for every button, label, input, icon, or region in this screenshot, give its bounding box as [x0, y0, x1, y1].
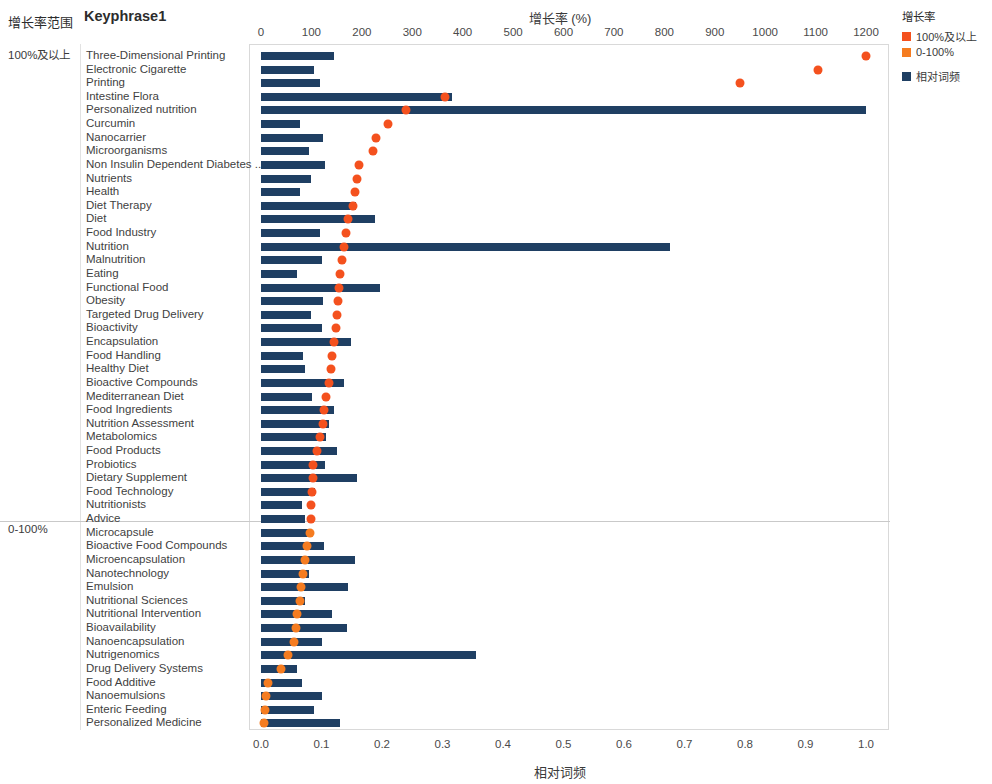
legend-items: 100%及以上0-100%相对词频	[902, 28, 977, 84]
frequency-bar	[261, 542, 324, 550]
legend-swatch-icon	[902, 32, 911, 41]
frequency-bar	[261, 501, 302, 509]
row-label: Nanoemulsions	[86, 689, 165, 702]
row-label: Non Insulin Dependent Diabetes ..	[86, 158, 261, 171]
growth-rate-dot	[309, 460, 318, 469]
frequency-bar	[261, 270, 297, 278]
growth-rate-dot	[332, 310, 341, 319]
growth-rate-dot	[301, 555, 310, 564]
frequency-bar	[261, 52, 334, 60]
growth-rate-dot	[814, 65, 823, 74]
frequency-bar	[261, 651, 476, 659]
top-tick-800: 800	[655, 26, 674, 38]
top-tick-900: 900	[705, 26, 724, 38]
growth-rate-dot	[303, 542, 312, 551]
bottom-tick-0.5: 0.5	[556, 738, 572, 750]
legend-item[interactable]: 相对词频	[902, 68, 977, 84]
row-label: Functional Food	[86, 281, 168, 294]
row-label: Advice	[86, 512, 121, 525]
growth-rate-dot	[324, 378, 333, 387]
legend-item[interactable]: 0-100%	[902, 46, 977, 58]
growth-rate-dot	[313, 446, 322, 455]
row-label: Intestine Flora	[86, 90, 159, 103]
growth-rate-dot	[355, 160, 364, 169]
growth-rate-dot	[384, 120, 393, 129]
growth-rate-dot	[328, 351, 337, 360]
row-label: Electronic Cigarette	[86, 63, 186, 76]
growth-rate-dot	[401, 106, 410, 115]
frequency-bar	[261, 243, 670, 251]
group-label-high: 100%及以上	[8, 46, 70, 62]
label-column-divider	[80, 44, 81, 730]
row-label: Three-Dimensional Printing	[86, 49, 225, 62]
frequency-bar	[261, 284, 380, 292]
frequency-bar	[261, 393, 312, 401]
growth-rate-dot	[261, 705, 270, 714]
bottom-tick-0.6: 0.6	[616, 738, 632, 750]
row-label: Food Handling	[86, 349, 161, 362]
bottom-tick-0.3: 0.3	[435, 738, 451, 750]
growth-range-column-header: 增长率范围	[8, 12, 73, 31]
growth-rate-dot	[339, 242, 348, 251]
row-label: Nutrigenomics	[86, 648, 160, 661]
legend: 增长率 100%及以上0-100%相对词频	[902, 8, 977, 86]
row-label: Printing	[86, 76, 125, 89]
frequency-bar	[261, 106, 866, 114]
frequency-bar	[261, 324, 322, 332]
growth-rate-dot	[307, 487, 316, 496]
row-label: Health	[86, 185, 119, 198]
growth-rate-dot	[334, 283, 343, 292]
row-label: Eating	[86, 267, 119, 280]
top-tick-700: 700	[604, 26, 623, 38]
growth-rate-dot	[316, 433, 325, 442]
growth-rate-dot	[307, 501, 316, 510]
row-label: Bioactive Food Compounds	[86, 539, 227, 552]
row-label: Emulsion	[86, 580, 133, 593]
row-label: Personalized nutrition	[86, 103, 197, 116]
frequency-bar	[261, 120, 300, 128]
growth-rate-dot	[862, 52, 871, 61]
legend-item-label: 100%及以上	[916, 28, 977, 44]
top-tick-100: 100	[302, 26, 321, 38]
bottom-tick-0.7: 0.7	[677, 738, 693, 750]
frequency-bar	[261, 93, 452, 101]
bottom-tick-0.0: 0.0	[253, 738, 269, 750]
legend-swatch-icon	[902, 48, 911, 57]
legend-item[interactable]: 100%及以上	[902, 28, 977, 44]
growth-rate-dot	[341, 229, 350, 238]
growth-rate-dot	[337, 256, 346, 265]
growth-rate-dot	[260, 719, 269, 728]
legend-item-label: 0-100%	[916, 46, 954, 58]
frequency-bar	[261, 529, 308, 537]
row-label: Food Ingredients	[86, 403, 172, 416]
row-label: Nutrients	[86, 172, 132, 185]
row-label: Drug Delivery Systems	[86, 662, 203, 675]
row-label: Nutrition Assessment	[86, 417, 194, 430]
top-tick-500: 500	[503, 26, 522, 38]
group-label-low: 0-100%	[8, 523, 48, 535]
frequency-bar	[261, 352, 303, 360]
growth-rate-dot	[735, 79, 744, 88]
frequency-bar	[261, 188, 300, 196]
frequency-bar	[261, 66, 314, 74]
top-tick-400: 400	[453, 26, 472, 38]
growth-rate-dot	[348, 201, 357, 210]
frequency-bar	[261, 161, 325, 169]
bottom-tick-0.2: 0.2	[374, 738, 390, 750]
top-tick-600: 600	[554, 26, 573, 38]
row-label: Bioactivity	[86, 321, 138, 334]
growth-rate-dot	[299, 569, 308, 578]
row-label: Bioactive Compounds	[86, 376, 198, 389]
row-label: Nanocarrier	[86, 131, 146, 144]
growth-rate-dot	[297, 583, 306, 592]
growth-rate-dot	[319, 406, 328, 415]
group-divider	[0, 521, 890, 522]
row-label: Healthy Diet	[86, 362, 149, 375]
row-label: Bioavailability	[86, 621, 156, 634]
bottom-tick-1.0: 1.0	[858, 738, 874, 750]
top-tick-1100: 1100	[803, 26, 828, 38]
frequency-bar	[261, 175, 311, 183]
row-label: Food Additive	[86, 676, 156, 689]
row-label: Malnutrition	[86, 253, 145, 266]
growth-rate-dot	[295, 596, 304, 605]
